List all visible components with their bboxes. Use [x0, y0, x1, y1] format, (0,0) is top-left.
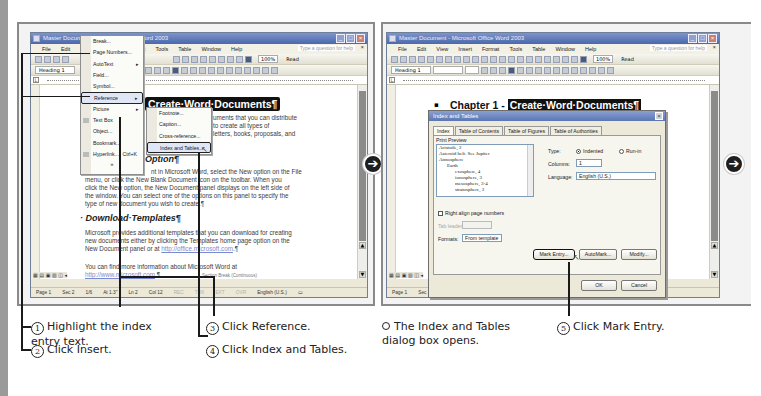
- columns-icon[interactable]: [553, 56, 560, 63]
- numbering-icon[interactable]: [217, 67, 224, 74]
- insert-table-icon[interactable]: [227, 56, 234, 63]
- menu-help[interactable]: Help: [230, 46, 243, 52]
- insert-table-icon[interactable]: [544, 56, 551, 63]
- print-icon[interactable]: [436, 56, 443, 63]
- align-right-icon[interactable]: [190, 67, 197, 74]
- formats-select[interactable]: From template: [462, 234, 502, 242]
- scroll-up-arrow[interactable]: ▲: [711, 242, 718, 249]
- menu-item-object[interactable]: Object...: [81, 126, 143, 137]
- justify-icon[interactable]: [199, 67, 206, 74]
- tab-selector-icon[interactable]: L: [389, 77, 395, 83]
- tab-table-of-authorities[interactable]: Table of Authorities: [550, 126, 602, 135]
- hyperlink-icon[interactable]: [526, 56, 533, 63]
- minimize-button[interactable]: _: [336, 34, 345, 43]
- numbering-icon[interactable]: [553, 67, 560, 74]
- zoom-select[interactable]: 100%: [258, 55, 278, 63]
- menu-file[interactable]: File: [41, 46, 52, 52]
- line-spacing-icon[interactable]: [208, 67, 215, 74]
- close-button[interactable]: ×: [356, 34, 365, 43]
- menu-item-text-box[interactable]: Text Box: [81, 115, 143, 126]
- border-icon[interactable]: [589, 67, 596, 74]
- line-spacing-icon[interactable]: [544, 67, 551, 74]
- menu-expand-button[interactable]: »: [81, 160, 143, 168]
- print-preview-box[interactable]: Aristotle, 2 Asteroid belt. See Jupiter …: [436, 144, 534, 197]
- font-color-icon[interactable]: [271, 67, 278, 74]
- tab-index[interactable]: Index: [433, 126, 454, 135]
- justify-icon[interactable]: [535, 67, 542, 74]
- spelling-book-icon[interactable]: ▭: [298, 290, 303, 295]
- underline-icon[interactable]: [499, 67, 506, 74]
- menu-file[interactable]: File: [397, 46, 408, 52]
- read-button[interactable]: Read: [621, 56, 634, 62]
- vertical-scrollbar[interactable]: ▲ ▼: [709, 85, 719, 279]
- increase-indent-icon[interactable]: [580, 67, 587, 74]
- tables-icon[interactable]: [218, 56, 225, 63]
- style-select[interactable]: Heading 1: [391, 66, 431, 74]
- paste-icon[interactable]: [490, 56, 497, 63]
- cancel-button[interactable]: Cancel: [621, 280, 657, 291]
- menu-format[interactable]: Format: [481, 46, 500, 52]
- scroll-up-arrow[interactable]: ▲: [359, 242, 366, 249]
- font-select[interactable]: [433, 66, 463, 74]
- menu-table[interactable]: Table: [177, 46, 192, 52]
- mark-entry-button[interactable]: Mark Entry...: [533, 249, 575, 260]
- maximize-button[interactable]: □: [698, 34, 707, 43]
- format-painter-icon[interactable]: [182, 56, 189, 63]
- type-runin-radio[interactable]: Run-in: [619, 148, 641, 154]
- columns-icon[interactable]: [236, 56, 243, 63]
- highlight-icon[interactable]: [598, 67, 605, 74]
- bold-icon[interactable]: [145, 67, 152, 74]
- status-ext[interactable]: EXT: [215, 290, 224, 295]
- cut-icon[interactable]: [472, 56, 479, 63]
- tables-icon[interactable]: [535, 56, 542, 63]
- menu-edit[interactable]: Edit: [416, 46, 427, 52]
- menu-item-picture[interactable]: Picture▸: [81, 104, 143, 115]
- language-select[interactable]: English (U.S.): [576, 172, 656, 180]
- tab-table-of-figures[interactable]: Table of Figures: [504, 126, 549, 135]
- email-icon[interactable]: [427, 56, 434, 63]
- align-center-icon[interactable]: [517, 67, 524, 74]
- menu-item-caption[interactable]: Caption...: [147, 119, 211, 130]
- menu-item-break[interactable]: Break...: [81, 36, 143, 47]
- vertical-scrollbar[interactable]: ▲ ▼: [357, 85, 367, 279]
- ok-button[interactable]: OK: [581, 280, 617, 291]
- status-trk[interactable]: TRK: [195, 290, 205, 295]
- decrease-indent-icon[interactable]: [235, 67, 242, 74]
- open-icon[interactable]: [400, 56, 407, 63]
- columns-spinner[interactable]: 1: [576, 159, 602, 167]
- save-icon[interactable]: [409, 56, 416, 63]
- dialog-close-button[interactable]: ×: [655, 112, 663, 120]
- show-hide-icon[interactable]: [580, 56, 587, 63]
- undo-icon[interactable]: [508, 56, 515, 63]
- right-align-checkbox[interactable]: Right align page numbers: [438, 210, 504, 216]
- menu-item-page-numbers[interactable]: Page Numbers...: [81, 47, 143, 58]
- undo-icon[interactable]: [191, 56, 198, 63]
- status-rec[interactable]: REC: [174, 290, 184, 295]
- minimize-button[interactable]: _: [688, 34, 697, 43]
- hyperlink-icon[interactable]: [209, 56, 216, 63]
- underline-icon[interactable]: [163, 67, 170, 74]
- highlight-icon[interactable]: [262, 67, 269, 74]
- scroll-down-arrow[interactable]: ▼: [711, 271, 718, 278]
- spelling-icon[interactable]: [454, 56, 461, 63]
- close-document-icon[interactable]: ×: [360, 44, 364, 50]
- permission-icon[interactable]: [418, 56, 425, 63]
- align-left-icon[interactable]: [172, 67, 179, 74]
- menu-item-reference[interactable]: Reference▸: [81, 92, 143, 103]
- new-icon[interactable]: [391, 56, 398, 63]
- research-icon[interactable]: [463, 56, 470, 63]
- menu-edit[interactable]: Edit: [60, 46, 71, 52]
- redo-icon[interactable]: [200, 56, 207, 63]
- format-painter-icon[interactable]: [499, 56, 506, 63]
- horizontal-ruler[interactable]: L: [387, 76, 719, 85]
- menu-help[interactable]: Help: [584, 46, 597, 52]
- menu-item-hyperlink[interactable]: Hyperlink...Ctrl+K: [81, 149, 143, 160]
- paste-icon[interactable]: [173, 56, 180, 63]
- menu-item-autotext[interactable]: AutoText▸: [81, 59, 143, 70]
- menu-window[interactable]: Window: [554, 46, 576, 52]
- increase-indent-icon[interactable]: [244, 67, 251, 74]
- align-right-icon[interactable]: [526, 67, 533, 74]
- automark-button[interactable]: AutoMark...: [579, 249, 617, 260]
- drawing-icon[interactable]: [562, 56, 569, 63]
- view-buttons[interactable]: ▦ ▤ ▣ ▥ ◫ ◂: [33, 272, 67, 278]
